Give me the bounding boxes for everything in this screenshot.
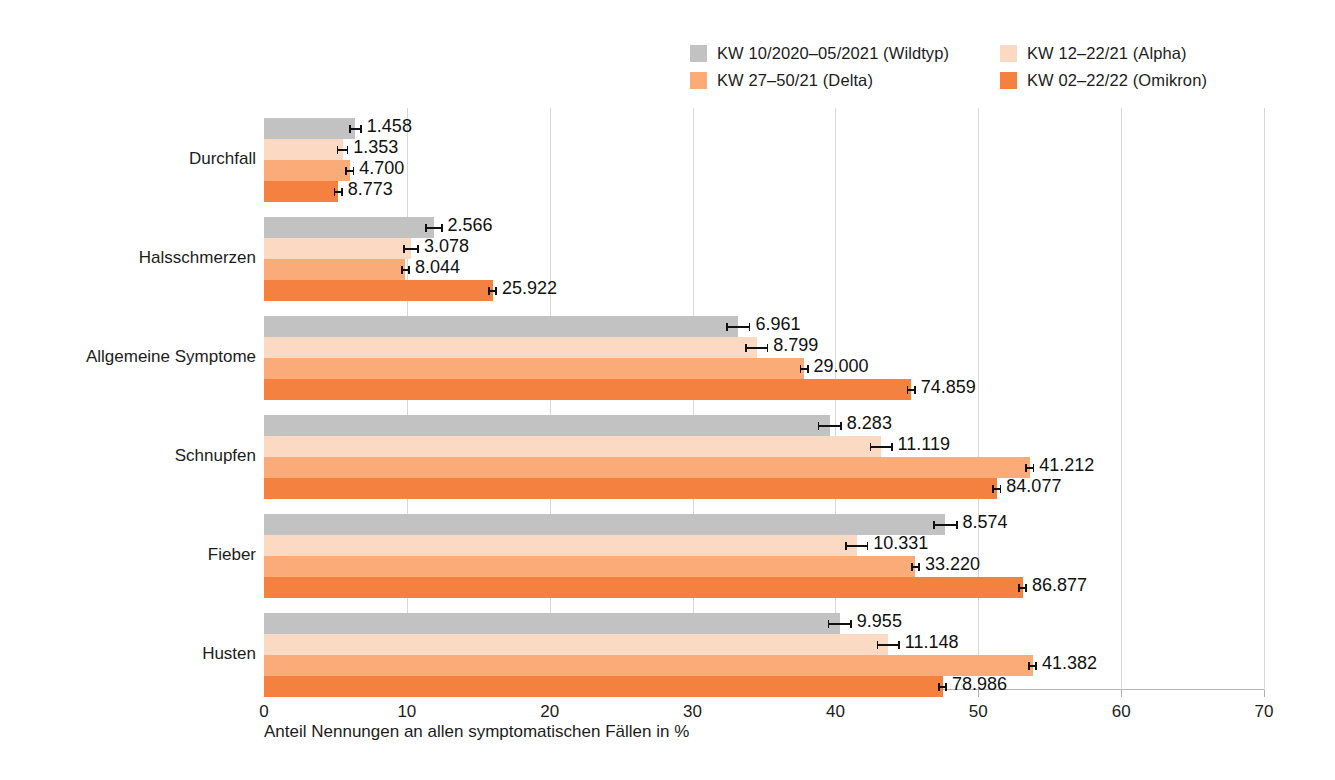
error-bar-cap-left bbox=[1025, 464, 1027, 472]
error-bar bbox=[938, 683, 947, 691]
tick-label-40: 40 bbox=[826, 702, 845, 722]
error-bar-cap-right bbox=[1025, 584, 1027, 592]
bar-row: 86.877 bbox=[264, 577, 1264, 598]
bar-value-label: 4.700 bbox=[359, 158, 404, 179]
bar-value-label: 8.773 bbox=[348, 179, 393, 200]
error-bar-cap-left bbox=[870, 443, 872, 451]
tick-label-70: 70 bbox=[1255, 702, 1274, 722]
error-bar-cap-right bbox=[840, 422, 842, 430]
legend-item-delta: KW 27–50/21 (Delta) bbox=[690, 71, 1000, 90]
bar-row: 8.574 bbox=[264, 514, 1264, 535]
bar-value-label: 41.212 bbox=[1039, 455, 1094, 476]
bar-omikron bbox=[264, 478, 997, 499]
error-bar-cap-left bbox=[911, 563, 913, 571]
bar-wildtyp bbox=[264, 415, 830, 436]
error-bar-cap-right bbox=[767, 344, 769, 352]
tick-label-60: 60 bbox=[1112, 702, 1131, 722]
error-bar-cap-right bbox=[353, 167, 355, 175]
bar-value-label: 1.458 bbox=[367, 116, 412, 137]
error-bar-cap-right bbox=[408, 266, 410, 274]
error-bar-cap-left bbox=[401, 266, 403, 274]
bar-group: 8.28311.11941.21284.077 bbox=[264, 415, 1264, 499]
error-bar-cap-right bbox=[749, 323, 751, 331]
bar-value-label: 78.986 bbox=[952, 674, 1007, 695]
error-bar-cap-right bbox=[1000, 485, 1002, 493]
bar-row: 9.955 bbox=[264, 613, 1264, 634]
legend-swatch-alpha bbox=[1000, 45, 1017, 62]
bar-row: 1.353 bbox=[264, 139, 1264, 160]
bar-row: 8.773 bbox=[264, 181, 1264, 202]
bar-delta bbox=[264, 160, 350, 181]
tick-label-50: 50 bbox=[969, 702, 988, 722]
bar-value-label: 6.961 bbox=[755, 314, 800, 335]
error-bar-cap-left bbox=[745, 344, 747, 352]
legend-swatch-wildtyp bbox=[690, 45, 707, 62]
bar-value-label: 8.283 bbox=[847, 413, 892, 434]
error-bar bbox=[1025, 464, 1034, 472]
bar-value-label: 25.922 bbox=[502, 278, 557, 299]
x-axis-title: Anteil Nennungen an allen symptomatische… bbox=[264, 722, 689, 742]
error-bar-cap-right bbox=[441, 224, 443, 232]
error-bar-cap-left bbox=[334, 188, 336, 196]
bar-alpha bbox=[264, 436, 881, 457]
legend-label-alpha: KW 12–22/21 (Alpha) bbox=[1027, 44, 1187, 63]
error-bar-cap-right bbox=[914, 386, 916, 394]
bar-value-label: 10.331 bbox=[873, 533, 928, 554]
error-bar-cap-left bbox=[818, 422, 820, 430]
error-bar bbox=[745, 344, 768, 352]
bar-group: 8.57410.33133.22086.877 bbox=[264, 514, 1264, 598]
error-bar bbox=[911, 563, 920, 571]
category-label-2: Allgemeine Symptome bbox=[86, 347, 256, 367]
tick-mark-70 bbox=[1264, 690, 1265, 697]
bar-value-label: 11.148 bbox=[905, 632, 959, 653]
error-bar bbox=[1028, 662, 1037, 670]
bar-delta bbox=[264, 655, 1033, 676]
bar-value-label: 41.382 bbox=[1042, 653, 1097, 674]
legend-label-wildtyp: KW 10/2020–05/2021 (Wildtyp) bbox=[717, 44, 949, 63]
bar-row: 8.283 bbox=[264, 415, 1264, 436]
category-label-1: Halsschmerzen bbox=[139, 248, 256, 268]
error-bar-cap-right bbox=[918, 563, 920, 571]
bar-row: 84.077 bbox=[264, 478, 1264, 499]
error-bar-cap-left bbox=[992, 485, 994, 493]
error-bar bbox=[726, 323, 750, 331]
error-bar-cap-right bbox=[850, 620, 852, 628]
bar-value-label: 8.574 bbox=[963, 512, 1008, 533]
bar-row: 11.119 bbox=[264, 436, 1264, 457]
error-bar bbox=[337, 146, 348, 154]
tick-label-10: 10 bbox=[397, 702, 416, 722]
legend-item-alpha: KW 12–22/21 (Alpha) bbox=[1000, 44, 1310, 63]
error-bar bbox=[488, 287, 497, 295]
error-bar-line bbox=[726, 326, 750, 328]
error-bar-line bbox=[933, 524, 957, 526]
bar-delta bbox=[264, 556, 915, 577]
category-label-0: Durchfall bbox=[189, 149, 256, 169]
bar-row: 33.220 bbox=[264, 556, 1264, 577]
error-bar bbox=[425, 224, 442, 232]
error-bar-line bbox=[870, 446, 893, 448]
error-bar-cap-left bbox=[337, 146, 339, 154]
bar-omikron bbox=[264, 676, 943, 697]
error-bar-line bbox=[745, 347, 768, 349]
bar-delta bbox=[264, 358, 804, 379]
error-bar bbox=[401, 266, 410, 274]
error-bar bbox=[828, 620, 852, 628]
error-bar bbox=[845, 542, 868, 550]
bar-omikron bbox=[264, 379, 911, 400]
bar-row: 10.331 bbox=[264, 535, 1264, 556]
bar-value-label: 9.955 bbox=[857, 611, 902, 632]
error-bar-line bbox=[818, 425, 842, 427]
error-bar-cap-right bbox=[945, 683, 947, 691]
error-bar-line bbox=[845, 545, 868, 547]
error-bar-cap-left bbox=[907, 386, 909, 394]
error-bar bbox=[870, 443, 893, 451]
error-bar-cap-left bbox=[726, 323, 728, 331]
error-bar-cap-left bbox=[488, 287, 490, 295]
bar-row: 2.566 bbox=[264, 217, 1264, 238]
error-bar-cap-right bbox=[347, 146, 349, 154]
bar-value-label: 11.119 bbox=[898, 434, 950, 455]
chart-legend: KW 10/2020–05/2021 (Wildtyp) KW 12–22/21… bbox=[690, 40, 1330, 94]
bar-row: 78.986 bbox=[264, 676, 1264, 697]
bar-row: 3.078 bbox=[264, 238, 1264, 259]
bar-omikron bbox=[264, 181, 338, 202]
